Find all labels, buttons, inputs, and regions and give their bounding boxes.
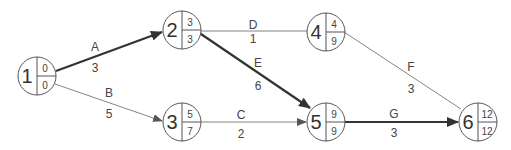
node-early: 12 xyxy=(481,109,493,120)
node-2: 2 3 3 xyxy=(163,11,201,49)
node-1: 1 0 0 xyxy=(18,57,56,95)
edge-d-activity: D xyxy=(249,18,258,32)
edge-f: F 3 xyxy=(344,32,461,109)
edge-g-activity: G xyxy=(389,107,398,121)
node-3: 3 5 7 xyxy=(163,103,201,141)
node-late: 7 xyxy=(187,126,193,137)
node-id: 1 xyxy=(21,65,32,87)
node-id: 2 xyxy=(166,19,177,41)
node-late: 3 xyxy=(187,34,193,45)
edge-b: B 5 xyxy=(55,84,162,121)
node-early: 9 xyxy=(331,109,337,120)
edge-c-activity: C xyxy=(237,108,246,122)
network-diagram: A 3 B 5 C 2 D 1 E 6 F 3 G 3 1 0 0 xyxy=(0,0,511,150)
edge-c: C 2 xyxy=(201,108,306,141)
node-late: 12 xyxy=(481,126,493,137)
node-early: 5 xyxy=(187,109,193,120)
node-id: 5 xyxy=(310,111,321,133)
node-late: 9 xyxy=(331,36,337,47)
edge-e-duration: 6 xyxy=(255,79,262,93)
edge-e-activity: E xyxy=(254,56,262,70)
node-early: 4 xyxy=(331,19,337,30)
edge-b-activity: B xyxy=(105,86,113,100)
node-id: 6 xyxy=(462,111,473,133)
node-6: 6 12 12 xyxy=(459,103,497,141)
edge-b-duration: 5 xyxy=(106,107,113,121)
node-4: 4 4 9 xyxy=(307,13,345,51)
node-early: 3 xyxy=(187,17,193,28)
edge-a-activity: A xyxy=(91,40,99,54)
edge-g: G 3 xyxy=(345,107,458,140)
edge-g-duration: 3 xyxy=(391,126,398,140)
node-late: 9 xyxy=(331,126,337,137)
line-f xyxy=(344,32,461,109)
edge-d-duration: 1 xyxy=(250,32,257,46)
edge-f-duration: 3 xyxy=(408,82,415,96)
node-id: 4 xyxy=(310,21,321,43)
edge-a: A 3 xyxy=(56,32,162,75)
edge-f-activity: F xyxy=(407,60,414,74)
edge-c-duration: 2 xyxy=(238,127,245,141)
node-early: 0 xyxy=(42,63,48,74)
arrow-a xyxy=(56,32,162,71)
edge-a-duration: 3 xyxy=(92,61,99,75)
edge-d: D 1 xyxy=(201,18,307,46)
node-late: 0 xyxy=(42,80,48,91)
node-5: 5 9 9 xyxy=(307,103,345,141)
node-id: 3 xyxy=(166,111,177,133)
